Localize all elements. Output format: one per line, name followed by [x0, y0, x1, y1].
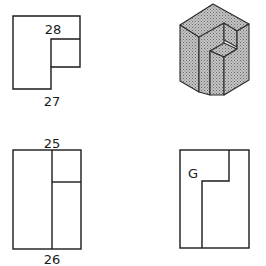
- label-27: 27: [44, 94, 61, 109]
- iso-left-face: [180, 25, 199, 92]
- top-view-figure: 28 27: [13, 16, 80, 109]
- front-view-outline: [13, 150, 81, 249]
- isometric-figure: [180, 4, 249, 95]
- label-25: 25: [44, 136, 61, 151]
- label-26: 26: [44, 252, 61, 266]
- side-view-outline: [180, 150, 249, 248]
- orthographic-diagram: 28 27 25 26 G: [0, 0, 266, 266]
- side-view-figure: G: [180, 150, 249, 248]
- front-view-figure: 25 26: [13, 136, 81, 266]
- label-28: 28: [45, 22, 62, 37]
- side-view-step-line: [202, 150, 229, 248]
- top-view-inner-step: [51, 39, 80, 67]
- iso-inner-column-left: [210, 51, 224, 95]
- label-g: G: [188, 166, 198, 181]
